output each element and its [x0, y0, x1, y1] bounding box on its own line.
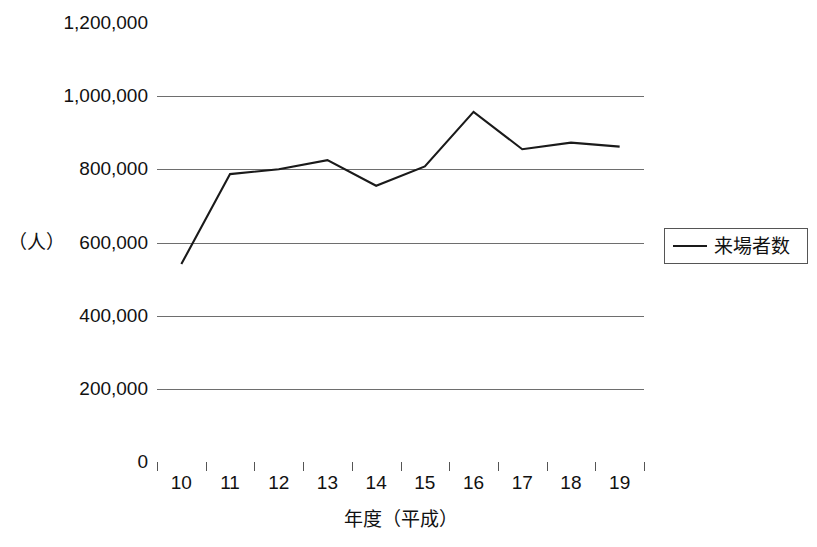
x-axis-tick-label: 10: [157, 472, 205, 494]
x-axis-tick-label: 15: [401, 472, 449, 494]
chart-legend: 来場者数: [664, 228, 808, 264]
x-axis-tick-label: 18: [547, 472, 595, 494]
x-axis-tick-label: 13: [303, 472, 351, 494]
x-axis-tick-label: 12: [255, 472, 303, 494]
x-axis-tick: [303, 462, 304, 471]
y-axis-labels: 1,200,0001,000,000800,000600,000400,0002…: [0, 0, 148, 547]
line-chart: 1,200,0001,000,000800,000600,000400,0002…: [0, 0, 817, 547]
y-axis-tick-label: 1,000,000: [63, 86, 148, 105]
legend-line-swatch-icon: [673, 245, 707, 247]
x-axis-tick: [401, 462, 402, 471]
x-axis-tick-label: 14: [352, 472, 400, 494]
y-axis-tick-label: 0: [137, 452, 148, 471]
x-axis-tick: [254, 462, 255, 471]
x-axis-tick: [595, 462, 596, 471]
x-axis-tick: [352, 462, 353, 471]
y-axis-tick-label: 800,000: [79, 159, 148, 178]
x-axis-tick-label: 19: [596, 472, 644, 494]
y-axis-tick-label: 400,000: [79, 306, 148, 325]
y-axis-tick-label: 200,000: [79, 379, 148, 398]
x-axis-tick: [547, 462, 548, 471]
x-axis-title: 年度（平成）: [157, 508, 644, 530]
y-axis-unit-label: （人）: [8, 233, 65, 252]
y-axis-tick-label: 1,200,000: [63, 13, 148, 32]
y-axis-tick-label: 600,000: [79, 233, 148, 252]
legend-label-visitors: 来場者数: [714, 237, 790, 256]
x-axis-tick: [644, 462, 645, 471]
x-axis-tick: [157, 462, 158, 471]
x-axis-tick: [449, 462, 450, 471]
series-line-visitors: [157, 23, 644, 462]
x-axis-tick-label: 16: [450, 472, 498, 494]
x-axis-tick-label: 17: [498, 472, 546, 494]
x-axis-tick: [498, 462, 499, 471]
x-axis-tick-label: 11: [206, 472, 254, 494]
x-axis-tick: [206, 462, 207, 471]
